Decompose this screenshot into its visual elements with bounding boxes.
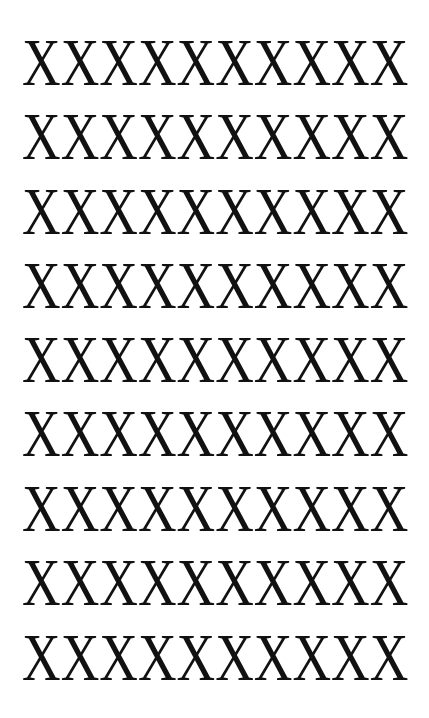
x-row-7: XXXXXXXXXX	[22, 476, 412, 531]
x-row-4: XXXXXXXXXX	[22, 253, 412, 308]
x-row-5: XXXXXXXXXX	[22, 327, 412, 382]
x-row-6: XXXXXXXXXX	[22, 401, 412, 456]
x-row-2: XXXXXXXXXX	[22, 104, 412, 159]
x-row-1: XXXXXXXXXX	[22, 30, 412, 85]
x-row-8: XXXXXXXXXX	[22, 550, 412, 605]
x-row-3: XXXXXXXXXX	[22, 179, 412, 234]
x-row-9: XXXXXXXXXX	[22, 625, 412, 680]
